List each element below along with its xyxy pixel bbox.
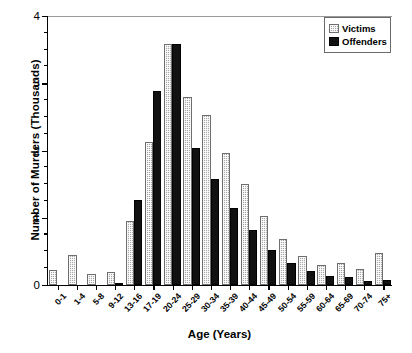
bar-victims-0-1 bbox=[49, 270, 57, 285]
chart-legend: Victims Offenders bbox=[324, 17, 391, 53]
chart-figure: Number of Murders (Thousands) Age (Years… bbox=[0, 0, 412, 353]
bar-group bbox=[48, 17, 67, 285]
x-tick bbox=[134, 285, 135, 290]
bar-victims-75+ bbox=[375, 253, 383, 285]
x-tick bbox=[58, 285, 59, 290]
bar-group bbox=[316, 17, 335, 285]
bar-offenders-30-34 bbox=[211, 179, 219, 285]
x-tick bbox=[230, 285, 231, 290]
x-tick bbox=[115, 285, 116, 290]
x-tick bbox=[326, 285, 327, 290]
offenders-swatch bbox=[329, 37, 339, 46]
x-tick bbox=[268, 285, 269, 290]
bar-group bbox=[297, 17, 316, 285]
x-tick bbox=[173, 285, 174, 290]
x-tick-label: 5-8 bbox=[90, 291, 106, 307]
bar-offenders-50-54 bbox=[287, 263, 295, 285]
bar-group bbox=[182, 17, 201, 285]
y-tick-mark bbox=[42, 285, 48, 286]
y-tick-label: 2 bbox=[34, 145, 40, 157]
plot-area: 01234 bbox=[47, 17, 392, 286]
bar-victims-70-74 bbox=[356, 269, 364, 285]
bar-offenders-65-69 bbox=[345, 277, 353, 285]
y-tick-label: 1 bbox=[34, 212, 40, 224]
bar-victims-5-8 bbox=[87, 274, 95, 285]
x-tick-label: 25-29 bbox=[180, 291, 202, 314]
bar-group bbox=[125, 17, 144, 285]
bar-victims-25-29 bbox=[183, 97, 191, 285]
x-tick bbox=[77, 285, 78, 290]
x-tick-label: 0-1 bbox=[52, 291, 68, 307]
bar-victims-60-64 bbox=[317, 265, 325, 285]
x-tick bbox=[211, 285, 212, 290]
x-tick-label: 45-49 bbox=[256, 291, 278, 314]
bar-group bbox=[86, 17, 105, 285]
bar-victims-1-4 bbox=[68, 255, 76, 285]
x-tick bbox=[307, 285, 308, 290]
bar-group bbox=[144, 17, 163, 285]
bar-group bbox=[374, 17, 393, 285]
x-tick bbox=[153, 285, 154, 290]
x-tick bbox=[345, 285, 346, 290]
bar-victims-9-12 bbox=[107, 272, 115, 285]
bar-group bbox=[336, 17, 355, 285]
victims-swatch bbox=[329, 24, 339, 33]
bar-group bbox=[106, 17, 125, 285]
x-tick-label: 40-44 bbox=[237, 291, 259, 314]
bar-group bbox=[201, 17, 220, 285]
x-tick bbox=[288, 285, 289, 290]
y-tick-label: 4 bbox=[34, 10, 40, 22]
x-tick-label: 70-74 bbox=[352, 291, 374, 314]
bar-offenders-60-64 bbox=[326, 276, 334, 285]
bar-offenders-45-49 bbox=[268, 250, 276, 285]
x-tick-label: 13-16 bbox=[122, 291, 144, 314]
x-tick bbox=[192, 285, 193, 290]
bar-group bbox=[355, 17, 374, 285]
x-tick bbox=[383, 285, 384, 290]
bar-group bbox=[278, 17, 297, 285]
bar-group bbox=[221, 17, 240, 285]
x-tick-label: 1-4 bbox=[71, 291, 87, 307]
y-tick-label: 0 bbox=[34, 279, 40, 291]
bar-victims-35-39 bbox=[222, 153, 230, 285]
bar-offenders-25-29 bbox=[192, 148, 200, 285]
bar-victims-20-24 bbox=[164, 44, 172, 285]
bar-victims-30-34 bbox=[202, 115, 210, 285]
bar-offenders-17-19 bbox=[153, 91, 161, 285]
bar-offenders-9-12 bbox=[115, 283, 123, 285]
bar-victims-50-54 bbox=[279, 239, 287, 285]
bar-group bbox=[259, 17, 278, 285]
bar-offenders-70-74 bbox=[364, 281, 372, 285]
legend-label: Victims bbox=[342, 24, 376, 34]
x-tick bbox=[249, 285, 250, 290]
x-tick-label: 30-34 bbox=[199, 291, 221, 314]
bar-victims-55-59 bbox=[298, 256, 306, 285]
x-tick-label: 17-19 bbox=[141, 291, 163, 314]
y-tick-label: 3 bbox=[34, 77, 40, 89]
bar-offenders-35-39 bbox=[230, 208, 238, 285]
bar-group bbox=[240, 17, 259, 285]
x-tick bbox=[364, 285, 365, 290]
x-tick-label: 20-24 bbox=[161, 291, 183, 314]
bar-offenders-20-24 bbox=[172, 44, 180, 285]
x-tick-label: 55-59 bbox=[295, 291, 317, 314]
x-tick bbox=[96, 285, 97, 290]
bar-offenders-13-16 bbox=[134, 200, 142, 285]
legend-label: Offenders bbox=[342, 37, 387, 47]
legend-item: Offenders bbox=[329, 35, 387, 48]
bar-group bbox=[163, 17, 182, 285]
x-axis-title: Age (Years) bbox=[47, 328, 392, 340]
bar-victims-40-44 bbox=[241, 184, 249, 285]
bar-victims-65-69 bbox=[337, 263, 345, 285]
x-tick-label: 60-64 bbox=[314, 291, 336, 314]
x-tick-label: 35-39 bbox=[218, 291, 240, 314]
legend-item: Victims bbox=[329, 22, 387, 35]
bar-group bbox=[67, 17, 86, 285]
bar-offenders-40-44 bbox=[249, 230, 257, 285]
bar-victims-13-16 bbox=[126, 221, 134, 285]
x-tick-label: 50-54 bbox=[276, 291, 298, 314]
x-tick-label: 65-69 bbox=[333, 291, 355, 314]
bar-offenders-55-59 bbox=[307, 271, 315, 285]
x-tick-label: 75+ bbox=[376, 291, 393, 308]
bar-victims-45-49 bbox=[260, 216, 268, 285]
